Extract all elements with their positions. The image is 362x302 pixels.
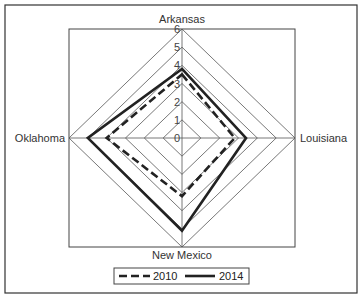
legend-label-2014: 2014 — [219, 270, 243, 282]
radar-chart: 0123456 Arkansas Louisiana New Mexico Ok… — [0, 0, 362, 302]
axis-label-louisiana: Louisiana — [300, 132, 348, 144]
axis-label-new-mexico: New Mexico — [152, 249, 212, 261]
axis-label-oklahoma: Oklahoma — [15, 132, 66, 144]
axis-label-arkansas: Arkansas — [159, 13, 205, 25]
legend-label-2010: 2010 — [153, 270, 177, 282]
tick-label: 3 — [174, 78, 180, 90]
legend: 2010 2014 — [114, 268, 249, 284]
tick-label: 0 — [174, 132, 180, 144]
tick-label: 2 — [174, 96, 180, 108]
tick-label: 5 — [174, 41, 180, 53]
tick-label: 1 — [174, 114, 180, 126]
